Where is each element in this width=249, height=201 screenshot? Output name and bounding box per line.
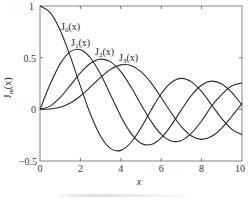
truncated-caption [56,194,196,197]
label-j0: J0(x) [61,21,80,34]
y-tick-labels: 1 0.5 0 −0.5 [19,1,37,167]
curve-j1 [40,49,242,145]
x-tick-4: 4 [118,163,123,174]
x-tick-6: 6 [159,163,164,174]
bessel-chart: 1 0.5 0 −0.5 0 2 4 6 8 10 x Jm(x) J0(x) … [0,0,249,201]
y-tick-0: 0 [31,104,36,115]
y-axis-title: Jm(x) [2,77,15,98]
x-tick-8: 8 [199,163,204,174]
label-j3: J3(x) [119,52,138,65]
x-tick-0: 0 [38,163,43,174]
x-tick-10: 10 [235,163,245,174]
y-tick-1: 1 [29,1,34,12]
x-tick-2: 2 [78,163,83,174]
x-axis-title: x [136,176,142,187]
y-tick-0.5: 0.5 [24,53,37,64]
y-tick-neg0.5: −0.5 [19,156,37,167]
x-tick-labels: 0 2 4 6 8 10 [38,163,246,174]
label-j1: J1(x) [71,37,90,50]
label-j2: J2(x) [95,46,114,59]
